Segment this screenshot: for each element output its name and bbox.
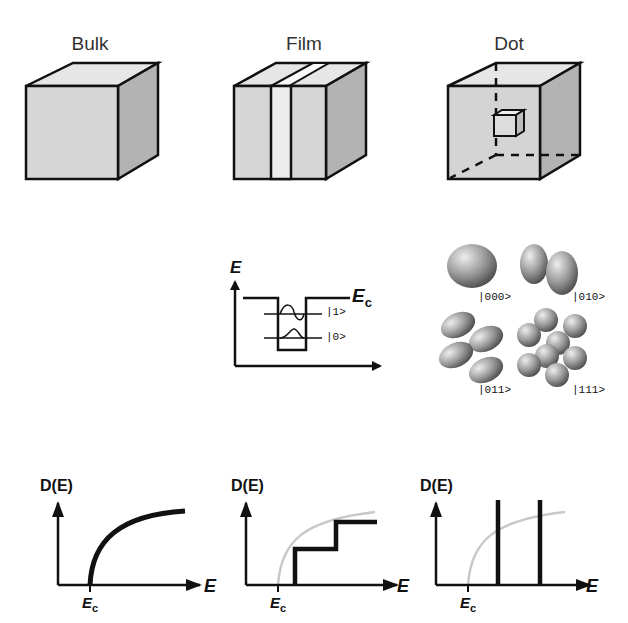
dos-dot-xlabel: E: [586, 576, 598, 597]
dos-plot-bulk: [58, 503, 200, 592]
dos-dot-ylabel: D(E): [420, 477, 453, 495]
film-cube: [234, 63, 366, 179]
dos-film-xlabel: E: [397, 576, 409, 597]
dos-dot-edge-label: Ec: [460, 594, 476, 614]
bulk-cube: [26, 63, 158, 179]
dos-plot-dot: [436, 500, 590, 592]
band-edge-label: Ec: [352, 285, 372, 310]
dos-film-edge-label: Ec: [270, 594, 286, 614]
state-1-label: |1>: [326, 306, 346, 318]
dos-bulk-xlabel: E: [204, 576, 216, 597]
wavefunction-000: [447, 244, 497, 288]
wavefunction-011-label: |011>: [478, 384, 511, 396]
wavefunction-111: [517, 308, 587, 387]
state-0-label: |0>: [326, 331, 346, 343]
dos-plot-film: [246, 503, 397, 592]
dos-film-ylabel: D(E): [231, 477, 264, 495]
dos-bulk-ylabel: D(E): [40, 477, 73, 495]
wavefunction-111-label: |111>: [572, 384, 605, 396]
wavefunction-000-label: |000>: [478, 291, 511, 303]
wavefunction-010-label: |010>: [572, 291, 605, 303]
wavefunction-010: [520, 244, 578, 295]
figure-canvas: [0, 0, 628, 623]
wavefunction-011: [435, 307, 508, 389]
dot-cube: [448, 63, 580, 179]
dos-bulk-edge-label: Ec: [82, 594, 98, 614]
energy-axis-label: E: [230, 258, 241, 278]
